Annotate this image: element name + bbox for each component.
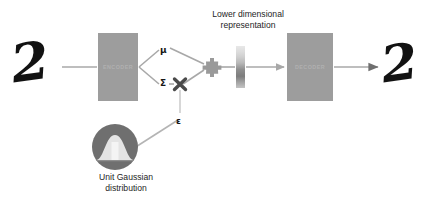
latent-caption-line-1: Lower dimensional xyxy=(196,9,300,20)
vae-architecture-diagram: 2 ENCODER μ Σ ε Lower dimensional repres… xyxy=(0,0,432,205)
gaussian-caption-line-1: Unit Gaussian xyxy=(78,172,174,183)
decoder-box[interactable]: DECODER xyxy=(287,33,333,101)
latent-caption-line-2: representation xyxy=(196,20,300,31)
output-handwritten-digit: 2 xyxy=(378,36,421,91)
encoder-box[interactable]: ENCODER xyxy=(98,33,138,101)
gaussian-bell-curve-icon xyxy=(92,124,138,170)
gaussian-caption-line-2: distribution xyxy=(78,183,174,194)
latent-vector-bar xyxy=(236,46,245,88)
line-gaussian-to-epsilon xyxy=(131,120,178,150)
sigma-symbol: Σ xyxy=(160,78,166,88)
line-encoder-to-sigma xyxy=(139,67,159,84)
connector-lines xyxy=(0,0,432,205)
decoder-label: DECODER xyxy=(295,64,325,70)
line-multiply-to-sum xyxy=(183,70,204,84)
line-mu-to-sum xyxy=(170,48,204,64)
gaussian-caption: Unit Gaussian distribution xyxy=(78,172,174,193)
encoder-label: ENCODER xyxy=(103,64,133,70)
mu-symbol: μ xyxy=(160,45,167,55)
epsilon-symbol: ε xyxy=(176,116,181,126)
sum-node xyxy=(203,58,222,77)
input-handwritten-digit: 2 xyxy=(8,34,53,91)
latent-caption: Lower dimensional representation xyxy=(196,9,300,30)
line-encoder-to-mu xyxy=(139,50,159,67)
